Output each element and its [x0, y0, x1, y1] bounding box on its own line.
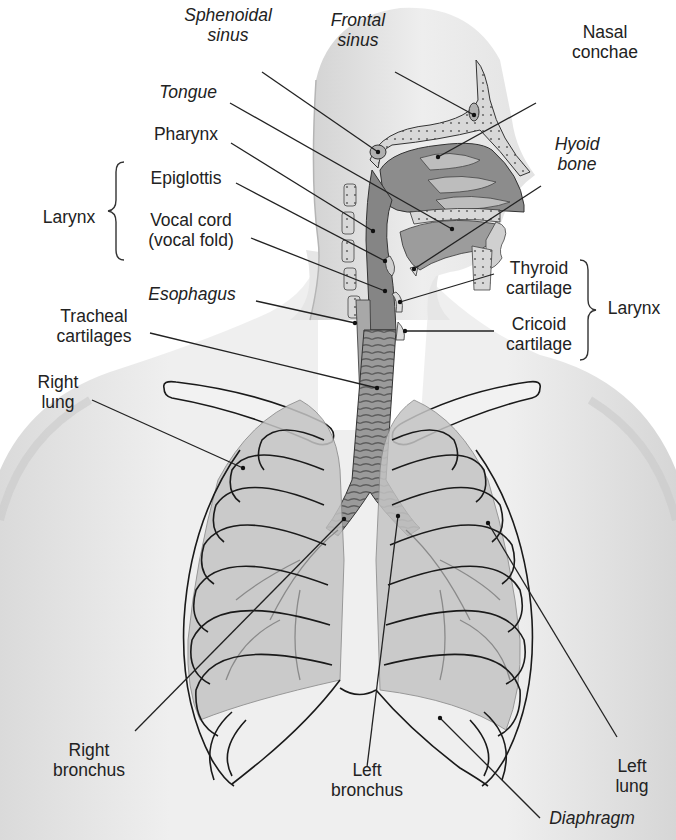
larynx-braces [0, 0, 676, 840]
respiratory-diagram: Sphenoidal sinus Frontal sinus Nasal con… [0, 0, 676, 840]
larynx-right-brace [580, 260, 596, 360]
larynx-left-brace [108, 162, 124, 260]
